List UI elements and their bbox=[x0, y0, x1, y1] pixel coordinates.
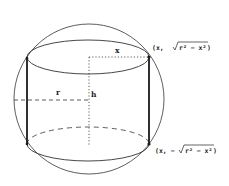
bottom-point-prefix: (x, − bbox=[155, 147, 175, 155]
svg-text:(x,: (x, bbox=[152, 44, 164, 52]
top-left-point bbox=[26, 57, 29, 60]
svg-text:): ) bbox=[213, 147, 217, 155]
label-r: r bbox=[56, 88, 61, 97]
top-point-suffix: ) bbox=[207, 44, 211, 52]
label-h: h bbox=[91, 90, 97, 99]
label-x: x bbox=[115, 46, 120, 55]
bottom-point-label: (x, − r² − x² ) bbox=[155, 145, 217, 155]
svg-text:r² − x²: r² − x² bbox=[179, 44, 206, 52]
svg-text:r² − x²: r² − x² bbox=[185, 147, 212, 155]
top-point-prefix: (x, bbox=[152, 44, 164, 52]
svg-text:(x, −: (x, − bbox=[155, 147, 175, 155]
cylinder-bottom-front-arc bbox=[27, 144, 149, 161]
bottom-point-suffix: ) bbox=[213, 147, 217, 155]
bottom-right-point bbox=[147, 142, 150, 145]
cylinder-in-sphere-diagram: x r h (x, r² − x² ) (x, − r² − x² ) bbox=[0, 0, 229, 186]
svg-text:): ) bbox=[207, 44, 211, 52]
bottom-left-point bbox=[26, 143, 29, 146]
cylinder-bottom-back-arc bbox=[27, 127, 149, 144]
top-point-radicand: r² − x² bbox=[179, 44, 206, 52]
top-point-label: (x, r² − x² ) bbox=[152, 42, 211, 52]
bottom-point-radicand: r² − x² bbox=[185, 147, 212, 155]
